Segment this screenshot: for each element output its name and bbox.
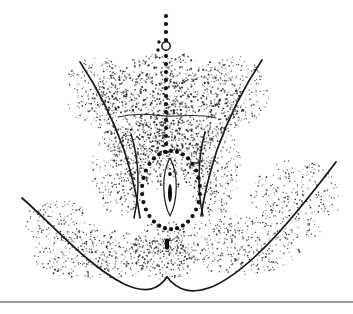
anatomical-figure-container: Perineal region anatomical line drawing … [0,0,353,314]
inferior-solid-marker [165,239,169,250]
inner-dot-marker [168,172,172,176]
inner-slit-marker [168,184,172,202]
anatomy-illustration [0,0,353,314]
landmark-circle-marker [162,42,170,50]
